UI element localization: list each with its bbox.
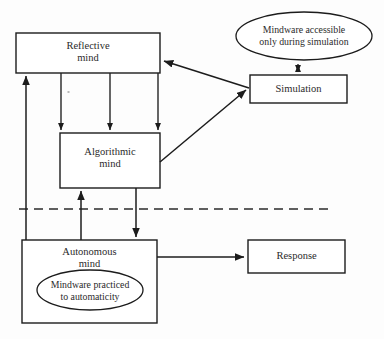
node-simulation[interactable] <box>250 75 347 103</box>
node-response[interactable] <box>248 240 345 273</box>
connector-simulation-to-reflective <box>164 61 249 88</box>
node-mindware-accessible[interactable] <box>236 12 372 60</box>
diagram-svg <box>0 0 384 339</box>
diagram-canvas: Reflective mind Algorithmic mind Autonom… <box>0 0 384 339</box>
scan-speck-artifact <box>68 91 70 93</box>
connector-algorithmic-to-simulation <box>160 90 246 162</box>
node-reflective-mind[interactable] <box>16 33 160 73</box>
node-algorithmic-mind[interactable] <box>60 133 160 188</box>
node-mindware-practiced[interactable] <box>37 270 143 310</box>
